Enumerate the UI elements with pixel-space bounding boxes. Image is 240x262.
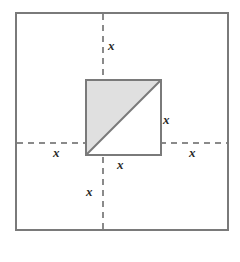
label-x-right-outer: x: [189, 146, 196, 159]
figure-canvas: [0, 0, 240, 262]
label-x-bottom-edge: x: [117, 158, 124, 171]
label-x-right-side: x: [163, 113, 170, 126]
label-x-top: x: [108, 39, 115, 52]
label-x-bottom: x: [86, 185, 93, 198]
geometry-figure: x x x x x x: [0, 0, 240, 262]
label-x-left-outer: x: [53, 146, 60, 159]
